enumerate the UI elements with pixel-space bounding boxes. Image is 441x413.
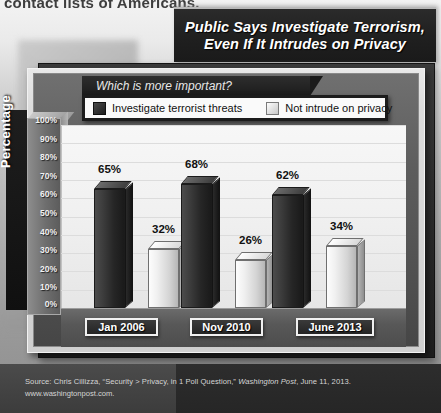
bar-front-face [272, 195, 303, 308]
chart-legend: Investigate terrorist threats Not intrud… [82, 95, 388, 121]
y-tick-100: 100% [27, 115, 57, 125]
y-tick-20: 20% [27, 264, 57, 274]
question-band: Which is more important? [82, 76, 310, 96]
bar-front-face [235, 260, 266, 308]
bar-nov2010-not-intrude: 26% [235, 260, 266, 308]
bar-june2013-not-intrude: 34% [326, 246, 357, 308]
bar-june2013-investigate: 62% [272, 195, 303, 308]
question-text: Which is more important? [96, 79, 232, 93]
x-category-june2013: June 2013 [296, 318, 374, 336]
bar-side-face [212, 177, 220, 308]
plot-area: 65% 32% 68% 26% 62% 34% [61, 125, 406, 308]
bar-front-face [148, 249, 179, 308]
legend-item-not-intrude: Not intrude on privacy [258, 98, 392, 118]
x-category-nov2010: Nov 2010 [190, 318, 263, 336]
x-category-jan2006: Jan 2006 [85, 318, 158, 336]
x-category-label: Jan 2006 [98, 321, 144, 333]
y-tick-30: 30% [27, 245, 57, 255]
y-tick-40: 40% [27, 227, 57, 237]
bar-front-face [326, 246, 357, 308]
title-line-1: Public Says Investigate Terrorism, [185, 19, 425, 35]
bar-side-face [303, 188, 311, 308]
page-title: Public Says Investigate Terrorism, Even … [185, 19, 425, 53]
footer-shade [176, 364, 441, 413]
source-publication: Washington Post [238, 377, 296, 386]
x-category-label: Nov 2010 [202, 321, 250, 333]
y-tick-90: 90% [27, 134, 57, 144]
bar-side-face [125, 182, 133, 308]
y-tick-10: 10% [27, 282, 57, 292]
y-axis-slab: 100% 90% 80% 70% 60% 50% 40% 30% 20% 10%… [27, 118, 61, 315]
cropped-body-text: contact lists of Americans. [4, 0, 200, 11]
y-tick-60: 60% [27, 189, 57, 199]
legend-item-investigate: Investigate terrorist threats [85, 98, 242, 118]
bar-value-label: 68% [185, 158, 208, 170]
bar-value-label: 65% [98, 163, 121, 175]
gridline-90 [61, 143, 406, 144]
source-suffix: , June 11, 2013. [296, 377, 351, 386]
y-tick-80: 80% [27, 152, 57, 162]
title-plaque: Public Says Investigate Terrorism, Even … [174, 7, 436, 62]
bar-jan2006-not-intrude: 32% [148, 249, 179, 308]
legend-swatch-dark-icon [93, 102, 106, 115]
legend-label-not-intrude: Not intrude on privacy [285, 102, 392, 114]
bar-side-face [357, 239, 365, 308]
bar-nov2010-investigate: 68% [181, 184, 212, 308]
legend-swatch-light-icon [266, 102, 279, 115]
bar-value-label: 34% [330, 220, 353, 232]
y-tick-50: 50% [27, 208, 57, 218]
bar-value-label: 26% [239, 234, 262, 246]
bar-value-label: 62% [276, 169, 299, 181]
source-url: www.washingtonpost.com. [25, 389, 114, 398]
y-tick-0: 0% [27, 299, 57, 309]
bar-jan2006-investigate: 65% [94, 189, 125, 308]
x-category-label: June 2013 [308, 321, 361, 333]
y-tick-70: 70% [27, 171, 57, 181]
source-line-1: Source: Chris Cillizza, “Security > Priv… [25, 377, 351, 386]
source-prefix: Source: Chris Cillizza, “Security > Priv… [25, 377, 238, 386]
legend-label-investigate: Investigate terrorist threats [112, 102, 242, 114]
title-line-2: Even If It Intrudes on Privacy [204, 36, 406, 52]
bar-front-face [94, 189, 125, 308]
bar-value-label: 32% [152, 223, 175, 235]
gridline-100 [61, 125, 406, 126]
y-axis-title: Percentage [0, 95, 13, 168]
bar-front-face [181, 184, 212, 308]
